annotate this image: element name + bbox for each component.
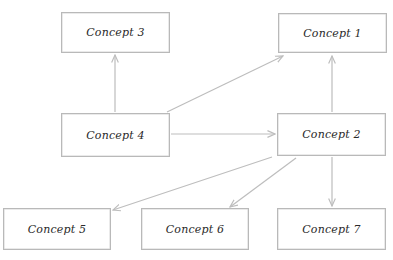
node-label: Concept 5 [28, 223, 87, 236]
node-concept-7[interactable]: Concept 7 [277, 208, 386, 250]
node-concept-5[interactable]: Concept 5 [3, 208, 111, 250]
node-label: Concept 2 [302, 128, 361, 141]
node-concept-4[interactable]: Concept 4 [61, 113, 170, 157]
node-label: Concept 3 [86, 26, 145, 39]
edge-c2-c6 [230, 158, 296, 207]
node-label: Concept 4 [86, 129, 145, 142]
node-label: Concept 7 [302, 223, 361, 236]
node-concept-6[interactable]: Concept 6 [141, 208, 249, 250]
edge-c2-c5 [113, 157, 272, 210]
node-label: Concept 6 [166, 223, 225, 236]
edge-c4-c1 [167, 56, 283, 112]
node-concept-1[interactable]: Concept 1 [278, 13, 387, 53]
node-concept-2[interactable]: Concept 2 [277, 113, 386, 156]
node-label: Concept 1 [303, 27, 362, 40]
node-concept-3[interactable]: Concept 3 [61, 12, 170, 53]
